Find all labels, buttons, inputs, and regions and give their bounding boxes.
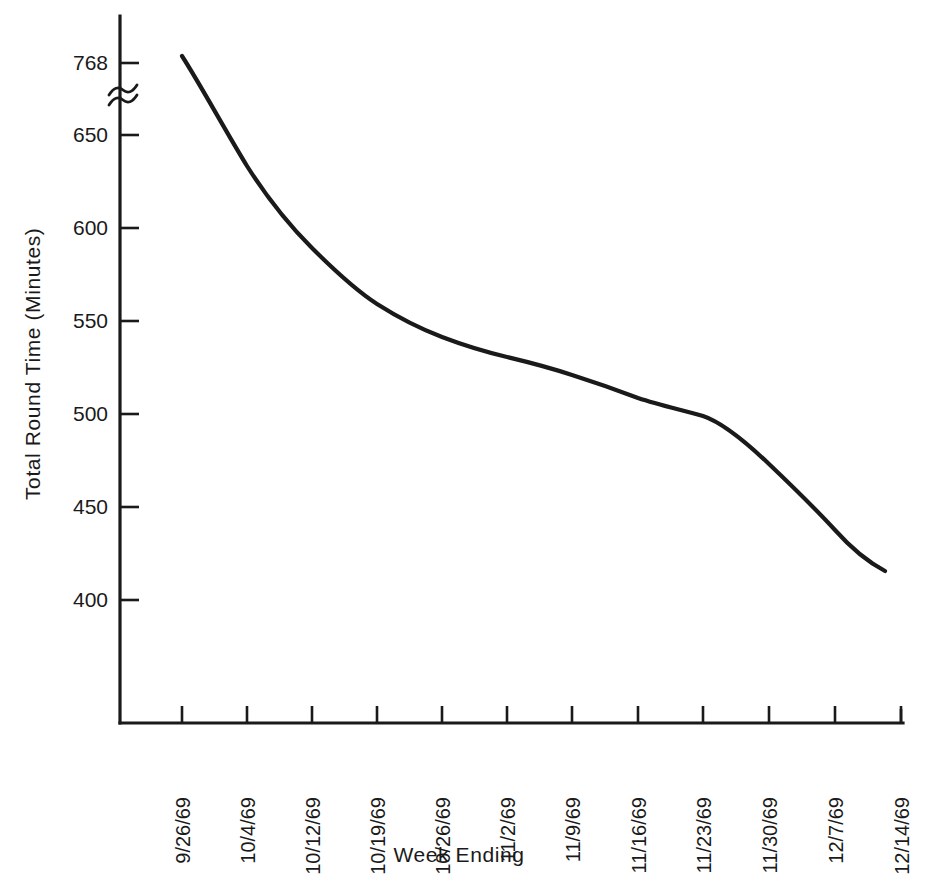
- data-series-line: [182, 56, 885, 571]
- x-tick-label: 12/14/69: [891, 797, 913, 875]
- x-tick-label: 11/16/69: [628, 797, 650, 873]
- y-tick-label: 400: [73, 588, 108, 611]
- y-tick-label: 550: [73, 309, 108, 332]
- x-tick-label: 10/4/69: [237, 797, 259, 864]
- chart-figure: 768 650 600 550 500 450 400 9/26/69 10/4…: [0, 0, 935, 879]
- line-chart: 768 650 600 550 500 450 400 9/26/69 10/4…: [0, 0, 935, 879]
- x-tick-label: 12/7/69: [825, 797, 847, 864]
- y-tick-label: 650: [73, 123, 108, 146]
- x-tick-label: 11/9/69: [562, 797, 584, 862]
- y-tick-label: 600: [73, 216, 108, 239]
- y-tick-label: 500: [73, 402, 108, 425]
- x-tick-label: 10/19/69: [367, 797, 389, 875]
- y-tick-label: 450: [73, 495, 108, 518]
- x-tick-label: 9/26/69: [172, 797, 194, 864]
- x-tick-label: 10/12/69: [302, 797, 324, 875]
- x-tick-label: 11/30/69: [759, 797, 781, 873]
- y-tick-group: [120, 63, 139, 600]
- y-axis-break-icon: [109, 85, 137, 105]
- x-axis-title: Week Ending: [393, 843, 524, 866]
- x-tick-label: 11/23/69: [693, 797, 715, 873]
- y-tick-label: 768: [73, 51, 108, 74]
- y-axis-title: Total Round Time (Minutes): [21, 228, 44, 500]
- x-tick-group: [182, 706, 901, 723]
